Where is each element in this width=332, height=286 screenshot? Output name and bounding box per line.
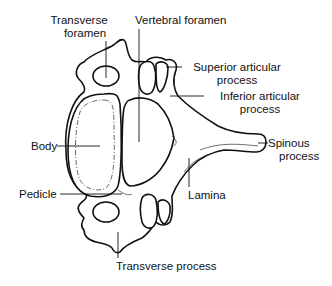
superior-articular-facet-lower — [141, 194, 158, 228]
label-vertebral-foramen: Vertebral foramen — [135, 14, 226, 27]
label-inferior-articular-line1: Inferior articular — [205, 90, 315, 103]
label-transverse-foramen-line2: foramen — [46, 27, 112, 40]
label-spinous-process: Spinous process — [268, 137, 319, 163]
label-body-text: Body — [31, 140, 57, 153]
label-superior-articular-line1: Superior articular — [181, 61, 293, 74]
label-transverse-foramen-line1: Transverse — [46, 14, 112, 27]
label-vertebral-foramen-line1: Vertebral foramen — [135, 14, 226, 27]
label-transverse-process: Transverse process — [116, 260, 217, 273]
label-lamina-text: Lamina — [188, 189, 226, 202]
label-inferior-articular-process: Inferior articular process — [205, 90, 315, 116]
label-body: Body — [31, 140, 57, 153]
label-transverse-foramen: Transverse foramen — [46, 14, 112, 40]
vertebra-diagram: Transverse foramen Vertebral foramen Sup… — [0, 0, 332, 286]
label-superior-articular-process: Superior articular process — [181, 61, 293, 87]
label-inferior-articular-line2: process — [205, 103, 315, 116]
label-pedicle: Pedicle — [19, 188, 57, 201]
label-pedicle-text: Pedicle — [19, 188, 57, 201]
label-superior-articular-line2: process — [181, 74, 293, 87]
transverse-foramen-lower — [93, 202, 119, 222]
label-transverse-process-text: Transverse process — [116, 260, 217, 273]
label-lamina: Lamina — [188, 189, 226, 202]
label-spinous-line1: Spinous — [268, 137, 319, 150]
superior-articular-facet-upper — [139, 62, 156, 95]
label-spinous-line2: process — [268, 150, 319, 163]
